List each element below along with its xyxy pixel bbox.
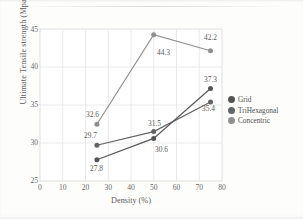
point-concentric-25 — [94, 122, 99, 127]
legend-marker-icon-grid — [228, 96, 235, 103]
chart-legend: Grid TriHexagonal Concentric — [228, 95, 278, 127]
data-label-concentric-50: 44.3 — [157, 49, 170, 56]
point-concentric-50 — [151, 32, 156, 37]
x-tick-30: 30 — [97, 183, 119, 192]
point-trihexagonal-50 — [151, 129, 156, 134]
data-label-concentric-25: 32.6 — [86, 111, 99, 118]
data-label-grid-25: 27.8 — [90, 165, 103, 172]
point-concentric-75 — [208, 48, 213, 53]
x-tick-20: 20 — [75, 183, 97, 192]
legend-marker-icon-concentric — [228, 117, 235, 124]
legend-marker-icon-trihexagonal — [228, 107, 235, 114]
legend-item-trihexagonal[interactable]: TriHexagonal — [228, 106, 278, 116]
data-label-concentric-75: 42.2 — [204, 34, 217, 41]
x-tick-70: 70 — [188, 183, 210, 192]
x-tick-60: 60 — [166, 183, 188, 192]
data-label-grid-50: 30.6 — [155, 146, 168, 153]
x-tick-80: 80 — [211, 183, 233, 192]
data-label-trihexagonal-25: 29.7 — [84, 132, 97, 139]
data-label-trihexagonal-75: 35.4 — [202, 105, 215, 112]
x-tick-50: 50 — [143, 183, 165, 192]
point-grid-75 — [208, 86, 213, 91]
point-grid-50 — [151, 136, 156, 141]
legend-label-trihexagonal: TriHexagonal — [238, 106, 278, 115]
legend-item-grid[interactable]: Grid — [228, 95, 278, 105]
x-tick-40: 40 — [120, 183, 142, 192]
chart-figure: Ultimate Tensile strength (Mpa) 45 40 35… — [0, 0, 303, 219]
data-label-trihexagonal-50: 31.5 — [148, 120, 161, 127]
x-tick-10: 10 — [52, 183, 74, 192]
data-label-grid-75: 37.3 — [204, 76, 217, 83]
x-tick-0: 0 — [29, 183, 51, 192]
x-axis-label: Density (%) — [40, 196, 222, 205]
point-trihexagonal-25 — [94, 143, 99, 148]
legend-label-concentric: Concentric — [238, 116, 270, 125]
point-grid-25 — [94, 157, 99, 162]
legend-item-concentric[interactable]: Concentric — [228, 116, 278, 126]
legend-label-grid: Grid — [238, 95, 251, 104]
